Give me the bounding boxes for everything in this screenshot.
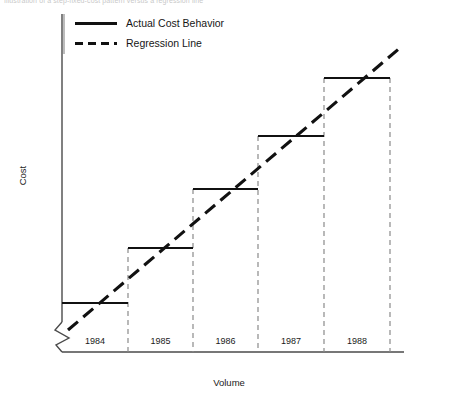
legend-item-regression-line: Regression Line [75, 36, 202, 50]
x-tick-label-1985: 1985 [128, 336, 193, 346]
legend-label-regression-line: Regression Line [126, 37, 202, 49]
solid-line-key-icon [75, 22, 117, 25]
step-cost-chart-figure: Illustration of a step-fixed-cost patter… [0, 0, 458, 412]
dashed-line-key-icon [75, 42, 117, 45]
x-tick-label-1984: 1984 [62, 336, 128, 346]
legend-item-actual-cost-behavior: Actual Cost Behavior [75, 16, 224, 30]
chart-canvas [0, 0, 458, 412]
legend-divider-rule [63, 14, 65, 54]
year-band-separators [128, 78, 390, 352]
legend-label-actual-cost-behavior: Actual Cost Behavior [126, 17, 224, 29]
x-axis-title: Volume [0, 377, 458, 388]
x-tick-label-1988: 1988 [324, 336, 390, 346]
actual-cost-step-series [62, 78, 390, 303]
chart-legend: Actual Cost Behavior Regression Line [63, 14, 253, 54]
x-tick-label-1987: 1987 [258, 336, 324, 346]
y-axis-title: Cost [17, 146, 28, 206]
x-tick-label-1986: 1986 [193, 336, 258, 346]
